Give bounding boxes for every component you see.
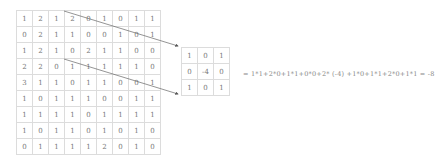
- window-arrows: [0, 0, 440, 168]
- arrow-bottom: [64, 59, 178, 94]
- arrow-top: [64, 11, 178, 46]
- convolution-equation: = 1*1+2*0+1*1+0*0+2* (-4) +1*0+1*1+2*0+1…: [243, 70, 434, 78]
